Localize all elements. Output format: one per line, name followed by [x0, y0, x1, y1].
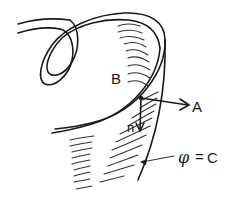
hatching-lower-left: [70, 136, 94, 189]
label-a: A: [192, 98, 202, 115]
label-equals: =: [195, 148, 204, 165]
level-set-leader: [140, 156, 174, 165]
sheet-edge-lower: [52, 48, 160, 133]
sheet-edge-upper: [55, 40, 165, 129]
label-c: C: [207, 149, 218, 166]
surface-diagram: B A n φ = C: [0, 0, 231, 202]
label-phi: φ: [178, 148, 190, 167]
sheet-right-boundary: [138, 40, 165, 180]
hatching-upper: [118, 24, 150, 86]
sheet-tail-upper: [18, 19, 70, 24]
sheet-tail-lower: [18, 28, 60, 33]
label-b: B: [111, 70, 121, 87]
label-n: n: [127, 120, 134, 135]
